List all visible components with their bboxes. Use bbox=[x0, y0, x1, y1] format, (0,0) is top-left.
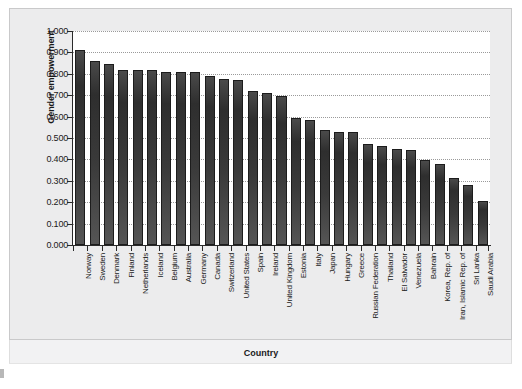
y-axis-title: Gender empowerment bbox=[46, 12, 56, 142]
x-axis-tick-mark bbox=[116, 246, 117, 251]
x-axis-tick-mark bbox=[174, 246, 175, 251]
x-axis-tick-mark bbox=[332, 246, 333, 251]
x-axis-tick-mark bbox=[418, 246, 419, 251]
y-axis-tick-mark bbox=[67, 202, 73, 203]
x-axis-tick-label: Saudi Arabia bbox=[486, 253, 495, 296]
x-axis-tick-label: Finland bbox=[127, 253, 136, 278]
bar bbox=[205, 76, 215, 245]
bar bbox=[305, 120, 315, 245]
x-axis-tick-mark bbox=[317, 246, 318, 251]
y-axis-tick-mark bbox=[67, 117, 73, 118]
bar bbox=[377, 146, 387, 245]
x-axis-tick-mark bbox=[432, 246, 433, 251]
bar bbox=[176, 72, 186, 245]
x-axis-tick-label: Netherlands bbox=[141, 253, 150, 294]
bar bbox=[291, 118, 301, 245]
x-axis-tick-label: Ireland bbox=[271, 253, 280, 276]
bar bbox=[463, 185, 473, 245]
x-axis-tick-mark bbox=[246, 246, 247, 251]
x-axis-tick-mark bbox=[231, 246, 232, 251]
x-axis-tick-mark bbox=[289, 246, 290, 251]
y-axis-tick-mark bbox=[67, 74, 73, 75]
x-axis-tick-label: Sweden bbox=[98, 253, 107, 281]
x-axis-tick-label: United Kingdom bbox=[285, 253, 294, 307]
x-axis-tick-mark bbox=[375, 246, 376, 251]
x-axis-tick-mark bbox=[202, 246, 203, 251]
x-axis-tick-label: Germany bbox=[199, 253, 208, 285]
x-axis-tick-label: Russian Federation bbox=[371, 253, 380, 319]
x-axis-tick-mark bbox=[145, 246, 146, 251]
x-axis-tick-mark bbox=[404, 246, 405, 251]
x-axis-tick-label: Venezuela bbox=[414, 253, 423, 289]
x-axis-tick-label: Australia bbox=[184, 253, 193, 282]
bar bbox=[233, 80, 243, 245]
x-axis-tick-label: Japan bbox=[328, 253, 337, 274]
y-axis-tick-mark bbox=[67, 224, 73, 225]
x-axis-tick-mark bbox=[447, 246, 448, 251]
bar bbox=[161, 72, 171, 245]
x-axis-tick-mark bbox=[361, 246, 362, 251]
bar bbox=[406, 150, 416, 245]
bar bbox=[363, 144, 373, 245]
x-axis-tick-label: Spain bbox=[256, 253, 265, 272]
bar bbox=[478, 201, 488, 245]
y-axis-tick-mark bbox=[67, 181, 73, 182]
x-axis-tick-mark bbox=[159, 246, 160, 251]
x-axis-tick-label: Belgium bbox=[170, 253, 179, 281]
bar bbox=[449, 178, 459, 245]
bar bbox=[75, 50, 85, 245]
y-axis-tick-label: 0.300 bbox=[30, 176, 68, 186]
x-axis-tick-mark bbox=[346, 246, 347, 251]
x-axis-tick-mark bbox=[131, 246, 132, 251]
gridline bbox=[73, 31, 490, 32]
page-edge-marker bbox=[0, 369, 4, 378]
x-axis-tick-label: Canada bbox=[213, 253, 222, 280]
bar bbox=[147, 70, 157, 245]
y-axis-tick-mark bbox=[67, 95, 73, 96]
y-axis-tick-label: 0.200 bbox=[30, 197, 68, 207]
y-axis-tick-mark bbox=[67, 31, 73, 32]
x-axis-tick-label: United States bbox=[242, 253, 251, 298]
x-axis-tick-label: Denmark bbox=[112, 253, 121, 284]
y-axis-tick-label: 0.000 bbox=[30, 240, 68, 250]
x-axis-tick-label: Bahrain bbox=[429, 253, 438, 279]
bar bbox=[219, 79, 229, 245]
bar bbox=[104, 64, 114, 245]
x-axis-tick-label: Iran, Islamic Rep. of bbox=[458, 253, 467, 320]
x-axis-title: Country bbox=[0, 348, 522, 358]
y-axis-tick-label: 0.100 bbox=[30, 219, 68, 229]
bar bbox=[420, 160, 430, 245]
x-axis-tick-mark bbox=[87, 246, 88, 251]
bar bbox=[320, 130, 330, 245]
x-axis-tick-mark bbox=[461, 246, 462, 251]
x-axis-tick-mark bbox=[102, 246, 103, 251]
x-axis-tick-label: Italy bbox=[314, 253, 323, 267]
bar bbox=[248, 91, 258, 245]
x-axis-tick-mark bbox=[488, 246, 489, 251]
x-axis-tick-mark bbox=[260, 246, 261, 251]
x-axis-tick-label: Estonia bbox=[299, 253, 308, 278]
x-axis-tick-label: Sri Lanka bbox=[472, 253, 481, 285]
x-axis-tick-mark bbox=[476, 246, 477, 251]
bar bbox=[392, 149, 402, 246]
bar bbox=[348, 132, 358, 245]
y-axis-tick-label: 0.400 bbox=[30, 154, 68, 164]
bar bbox=[334, 132, 344, 245]
x-axis-tick-label: Switzerland bbox=[227, 253, 236, 292]
x-axis-tick-mark bbox=[303, 246, 304, 251]
bar bbox=[435, 164, 445, 245]
bar bbox=[133, 70, 143, 245]
bar bbox=[190, 72, 200, 245]
bar bbox=[90, 61, 100, 245]
bar bbox=[262, 93, 272, 245]
y-axis-tick-mark bbox=[67, 52, 73, 53]
y-axis-tick-mark bbox=[67, 159, 73, 160]
x-axis-tick-label: Hungary bbox=[343, 253, 352, 282]
x-axis-tick-mark bbox=[274, 246, 275, 251]
bar bbox=[118, 70, 128, 245]
x-axis-line bbox=[72, 245, 491, 246]
x-axis-tick-mark bbox=[188, 246, 189, 251]
x-axis-tick-label: Korea, Rep. of bbox=[443, 253, 452, 302]
bar bbox=[276, 96, 286, 245]
plot-area bbox=[73, 31, 490, 245]
